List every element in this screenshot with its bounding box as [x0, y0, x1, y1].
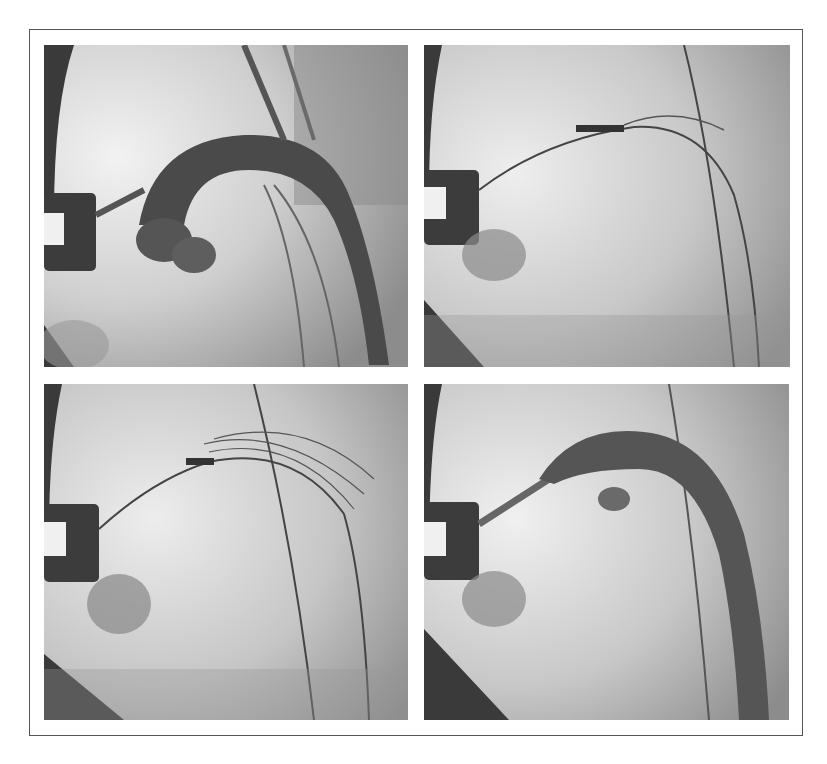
panel-bottom-left-stent-deployment: [44, 384, 408, 720]
panel-top-right-wires: [424, 45, 790, 367]
fluoroscopy-image: [424, 45, 790, 367]
panel-top-left-angiogram: [44, 45, 408, 367]
angiogram-image: [424, 384, 789, 720]
angiogram-image: [44, 45, 408, 367]
panel-bottom-right-final-angiogram: [424, 384, 789, 720]
fluoroscopy-image: [44, 384, 408, 720]
